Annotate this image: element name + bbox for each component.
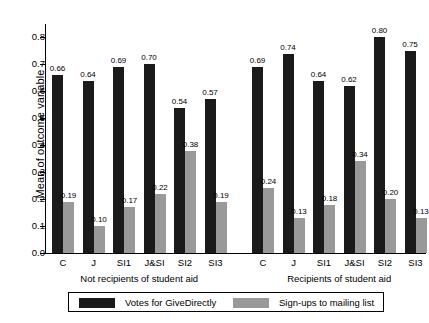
bar-signups-4 xyxy=(185,151,196,253)
y-tick-0.3: 0.3 xyxy=(0,172,45,173)
y-tick-label: 0.2 xyxy=(7,194,45,204)
bar-value-label: 0.18 xyxy=(315,195,345,203)
bar-votes-4 xyxy=(174,108,185,253)
bar-votes-1 xyxy=(83,81,94,253)
legend-swatch-votes xyxy=(79,298,115,308)
bar-value-label: 0.20 xyxy=(376,189,406,197)
panel-label-1: Recipients of student aid xyxy=(239,274,429,284)
legend-label-signups: Sign-ups to mailing list xyxy=(279,297,374,308)
legend-label-votes: Votes for GiveDirectly xyxy=(125,297,216,308)
bar-value-label: 0.62 xyxy=(334,76,364,84)
bar-value-label: 0.64 xyxy=(73,71,103,79)
y-tick-0.7: 0.7 xyxy=(0,64,45,65)
x-category-label-11: SI3 xyxy=(396,258,429,268)
y-tick-label: 0.3 xyxy=(7,167,45,177)
bar-signups-6 xyxy=(263,188,274,253)
bar-signups-10 xyxy=(385,199,396,253)
bar-votes-0 xyxy=(52,75,63,253)
bar-votes-3 xyxy=(144,64,155,253)
bar-signups-1 xyxy=(94,226,105,253)
y-tick-0.1: 0.1 xyxy=(0,226,45,227)
bar-signups-11 xyxy=(416,218,427,253)
panel-label-0: Not recipients of student aid xyxy=(39,274,239,284)
bar-votes-6 xyxy=(252,67,263,253)
bar-votes-2 xyxy=(113,67,124,253)
x-axis-line xyxy=(45,253,426,254)
bar-value-label: 0.74 xyxy=(273,44,303,52)
bar-value-label: 0.17 xyxy=(115,197,145,205)
y-tick-0.4: 0.4 xyxy=(0,145,45,146)
bar-value-label: 0.70 xyxy=(134,54,164,62)
y-tick-label: 0.5 xyxy=(7,113,45,123)
bar-signups-2 xyxy=(124,207,135,253)
bar-value-label: 0.19 xyxy=(54,192,84,200)
bar-value-label: 0.38 xyxy=(176,141,206,149)
bar-value-label: 0.64 xyxy=(304,71,334,79)
bar-value-label: 0.80 xyxy=(365,27,395,35)
bar-value-label: 0.57 xyxy=(195,89,225,97)
bar-signups-5 xyxy=(216,202,227,253)
y-tick-0.2: 0.2 xyxy=(0,199,45,200)
bar-votes-9 xyxy=(344,86,355,253)
bar-votes-8 xyxy=(313,81,324,253)
bar-value-label: 0.10 xyxy=(84,216,114,224)
y-tick-label: 0.4 xyxy=(7,140,45,150)
bar-value-label: 0.66 xyxy=(43,65,73,73)
plot-area: 0.660.190.640.100.690.170.700.220.540.38… xyxy=(46,24,426,253)
bar-signups-9 xyxy=(355,161,366,253)
bar-value-label: 0.19 xyxy=(206,192,236,200)
y-tick-label: 0.6 xyxy=(7,86,45,96)
y-tick-0.5: 0.5 xyxy=(0,118,45,119)
bar-value-label: 0.69 xyxy=(104,57,134,65)
y-tick-0.6: 0.6 xyxy=(0,91,45,92)
bar-value-label: 0.24 xyxy=(254,178,284,186)
chart-root: Mean of outcome variable 0.00.10.20.30.4… xyxy=(0,0,429,323)
bar-value-label: 0.54 xyxy=(165,98,195,106)
bar-signups-8 xyxy=(324,205,335,253)
bar-votes-11 xyxy=(405,51,416,253)
y-tick-label: 0.1 xyxy=(7,221,45,231)
y-tick-label: 0.7 xyxy=(7,59,45,69)
bar-value-label: 0.34 xyxy=(345,151,375,159)
bar-votes-5 xyxy=(205,99,216,253)
bar-value-label: 0.22 xyxy=(145,184,175,192)
y-tick-0.8: 0.8 xyxy=(0,37,45,38)
x-category-label-5: SI3 xyxy=(196,258,236,268)
legend-swatch-signups xyxy=(233,298,269,308)
bar-votes-7 xyxy=(283,54,294,253)
y-tick-label: 0.0 xyxy=(7,248,45,258)
bar-value-label: 0.75 xyxy=(395,41,425,49)
bar-value-label: 0.13 xyxy=(406,208,429,216)
bar-value-label: 0.13 xyxy=(284,208,314,216)
y-tick-label: 0.8 xyxy=(7,32,45,42)
bar-signups-0 xyxy=(63,202,74,253)
y-tick-0.0: 0.0 xyxy=(0,253,45,254)
chart-legend: Votes for GiveDirectly Sign-ups to maili… xyxy=(68,292,384,312)
bar-value-label: 0.69 xyxy=(243,57,273,65)
bar-votes-10 xyxy=(374,37,385,253)
bar-signups-7 xyxy=(294,218,305,253)
bar-signups-3 xyxy=(155,194,166,253)
